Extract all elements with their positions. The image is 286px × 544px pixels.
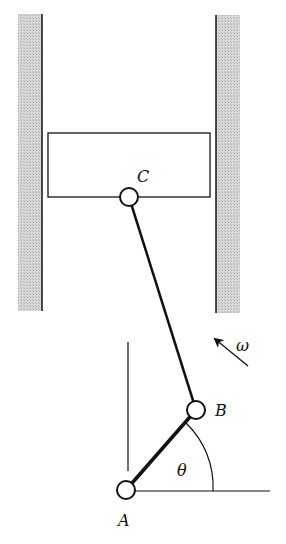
right-wall [216,15,240,313]
left-wall [18,14,42,311]
connecting-rod-cb [129,197,196,410]
label-a: A [116,511,130,530]
slider-crank-diagram: C B A θ ω [0,0,286,544]
label-omega: ω [236,336,249,355]
label-c: C [137,167,149,186]
pin-a [117,481,135,499]
pin-c [120,188,138,206]
theta-arc [186,423,213,491]
pin-b [187,401,205,419]
label-theta: θ [177,461,187,480]
label-b: B [214,401,227,420]
